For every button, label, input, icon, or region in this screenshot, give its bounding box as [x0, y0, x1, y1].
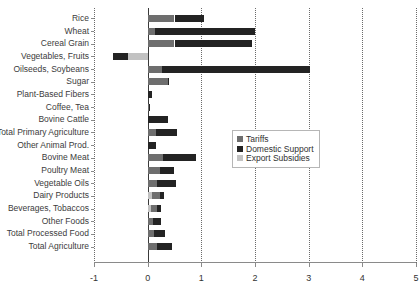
y-tick — [91, 94, 94, 95]
bar-row: Dairy Products — [94, 190, 416, 203]
y-axis-label: Other Foods — [42, 217, 89, 226]
y-axis-label: Rice — [72, 14, 89, 23]
bar-row: Total Agriculture — [94, 240, 416, 253]
bar-segment-tariffs — [148, 15, 175, 22]
y-axis-label: Oilseeds, Soybeans — [13, 65, 89, 74]
y-axis-label: Bovine Cattle — [38, 115, 89, 124]
bar-segment-domestic-support — [157, 243, 172, 250]
bar-segment-domestic-support — [156, 129, 177, 136]
gridline-5 — [416, 8, 417, 263]
bar-row: Wheat — [94, 25, 416, 38]
y-axis-label: Poultry Meat — [41, 166, 89, 175]
y-tick — [91, 171, 94, 172]
bar-segment-domestic-support — [149, 104, 150, 111]
y-tick — [91, 132, 94, 133]
y-tick — [91, 209, 94, 210]
legend-item-export-subsidies: Export Subsidies — [237, 154, 314, 163]
y-tick — [91, 18, 94, 19]
bar-segment-domestic-support — [155, 28, 255, 35]
chart-container: RiceWheatCereal GrainVegetables, FruitsO… — [0, 0, 419, 298]
bar-segment-tariffs — [148, 129, 156, 136]
bar-row: Rice — [94, 12, 416, 25]
y-axis-label: Sugar — [66, 77, 89, 86]
legend-swatch-export-subsidies — [237, 155, 243, 161]
y-tick — [91, 247, 94, 248]
x-tick-4 — [362, 263, 363, 267]
legend-label-tariffs: Tariffs — [246, 135, 269, 144]
bar-row: Other Foods — [94, 215, 416, 228]
bar-segment-domestic-support — [168, 78, 169, 85]
legend-label-domestic-support: Domestic Support — [246, 145, 314, 154]
bar-segment-tariffs — [148, 66, 162, 73]
y-axis-label: Total Primary Agriculture — [0, 128, 89, 137]
bar-segment-domestic-support — [175, 40, 253, 47]
y-axis-label: Other Animal Prod. — [17, 141, 89, 150]
y-tick — [91, 145, 94, 146]
bar-row: Vegetable Oils — [94, 177, 416, 190]
x-tick-label: 1 — [199, 273, 204, 283]
y-tick — [91, 56, 94, 57]
bar-segment-tariffs — [148, 78, 168, 85]
y-tick — [91, 183, 94, 184]
y-tick — [91, 221, 94, 222]
bar-segment-domestic-support — [160, 167, 174, 174]
x-tick-label: 0 — [145, 273, 150, 283]
y-axis-label: Coffee, Tea — [46, 103, 89, 112]
y-tick — [91, 234, 94, 235]
bar-segment-domestic-support — [157, 180, 176, 187]
x-tick-label: 4 — [360, 273, 365, 283]
y-tick — [91, 82, 94, 83]
bar-row: Vegetables, Fruits — [94, 50, 416, 63]
x-tick-label: 5 — [413, 273, 418, 283]
x-tick-0 — [148, 263, 149, 267]
y-axis-label: Wheat — [64, 27, 89, 36]
legend-item-domestic-support: Domestic Support — [237, 145, 314, 154]
x-tick-label: 2 — [252, 273, 257, 283]
x-tick-label: -1 — [90, 273, 98, 283]
bar-segment-tariffs — [148, 167, 160, 174]
bar-row: Plant-Based Fibers — [94, 88, 416, 101]
y-axis-label: Beverages, Tobaccos — [8, 204, 89, 213]
bar-segment-tariffs — [148, 154, 163, 161]
bar-segment-domestic-support — [113, 53, 128, 60]
bar-segment-tariffs — [152, 192, 160, 199]
y-tick — [91, 120, 94, 121]
x-tick-1 — [201, 263, 202, 267]
x-tick--1 — [94, 263, 95, 267]
y-tick — [91, 196, 94, 197]
bar-row: Bovine Cattle — [94, 113, 416, 126]
legend-label-export-subsidies: Export Subsidies — [246, 154, 310, 163]
bar-segment-domestic-support — [148, 142, 156, 149]
y-tick — [91, 69, 94, 70]
y-axis-label: Plant-Based Fibers — [17, 90, 89, 99]
bar-row: Coffee, Tea — [94, 101, 416, 114]
y-axis-label: Cereal Grain — [41, 39, 89, 48]
y-axis-label: Dairy Products — [33, 191, 89, 200]
bar-segment-domestic-support — [160, 192, 164, 199]
y-axis-label: Total Agriculture — [29, 242, 89, 251]
x-tick-5 — [416, 263, 417, 267]
x-tick-3 — [309, 263, 310, 267]
bar-row: Total Processed Food — [94, 228, 416, 241]
bar-segment-domestic-support — [148, 116, 168, 123]
bar-segment-domestic-support — [175, 15, 205, 22]
legend-swatch-tariffs — [237, 136, 243, 142]
legend-swatch-domestic-support — [237, 146, 243, 152]
bar-segment-domestic-support — [153, 218, 161, 225]
bar-segment-domestic-support — [148, 91, 153, 98]
chart-legend: Tariffs Domestic Support Export Subsidie… — [232, 130, 320, 168]
y-axis-label: Vegetable Oils — [34, 179, 89, 188]
y-tick — [91, 158, 94, 159]
y-tick — [91, 44, 94, 45]
y-tick — [91, 31, 94, 32]
bar-segment-tariffs — [148, 28, 155, 35]
legend-item-tariffs: Tariffs — [237, 135, 314, 144]
bar-segment-tariffs — [148, 180, 157, 187]
bar-segment-tariffs — [148, 40, 175, 47]
x-tick-2 — [255, 263, 256, 267]
bar-row: Beverages, Tobaccos — [94, 202, 416, 215]
bar-segment-tariffs — [148, 243, 157, 250]
x-tick-label: 3 — [306, 273, 311, 283]
bar-segment-domestic-support — [163, 154, 196, 161]
bar-row: Oilseeds, Soybeans — [94, 63, 416, 76]
